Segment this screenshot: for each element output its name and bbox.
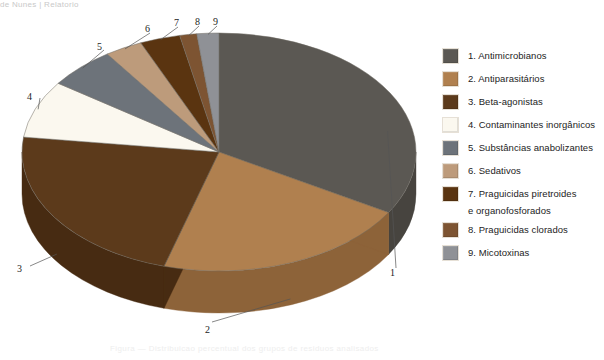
legend-swatch-icon-1 <box>442 48 459 64</box>
legend-label-7: 7. Praguicidas piretroides <box>468 186 577 201</box>
legend-label-5: 5. Substâncias anabolizantes <box>468 140 593 155</box>
legend-swatch-icon-3 <box>442 94 459 110</box>
legend-label-8: 8. Praguicidas clorados <box>468 222 568 237</box>
callout-label-4: 4 <box>27 92 32 102</box>
pie-chart: 1 2 3 4 5 6 7 8 9 <box>0 0 440 340</box>
legend-swatch-icon-7 <box>442 186 459 202</box>
callout-label-5: 5 <box>97 42 102 52</box>
legend-item-3[interactable]: 3. Beta-agonistas <box>442 94 602 110</box>
chart-page: de Nunes | Relatorio 1 2 3 4 5 6 7 8 9 1… <box>0 0 604 360</box>
legend-item-4[interactable]: 4. Contaminantes inorgânicos <box>442 117 602 133</box>
legend-swatch-icon-8 <box>442 222 459 238</box>
pie-top-faces <box>22 33 416 271</box>
legend-swatch-icon-4 <box>442 117 459 133</box>
legend-item-8[interactable]: 8. Praguicidas clorados <box>442 222 602 238</box>
legend-item-2[interactable]: 2. Antiparasitários <box>442 71 602 87</box>
callout-label-7: 7 <box>174 18 179 28</box>
legend-label-6: 6. Sedativos <box>468 163 521 178</box>
callout-label-3: 3 <box>17 264 22 274</box>
callout-label-2: 2 <box>205 325 210 335</box>
legend: 1. Antimicrobianos2. Antiparasitários3. … <box>442 48 602 268</box>
legend-swatch-icon-5 <box>442 140 459 156</box>
legend-swatch-icon-9 <box>442 245 459 261</box>
cropped-caption-text: Figura — Distribuicao percentual dos gru… <box>110 344 530 358</box>
callout-label-8: 8 <box>195 17 200 27</box>
legend-label-7-cont: e organofosforados <box>468 204 602 218</box>
legend-item-1[interactable]: 1. Antimicrobianos <box>442 48 602 64</box>
callout-label-6: 6 <box>145 24 150 34</box>
legend-label-9: 9. Micotoxinas <box>468 245 529 260</box>
legend-label-3: 3. Beta-agonistas <box>468 94 543 109</box>
legend-item-9[interactable]: 9. Micotoxinas <box>442 245 602 261</box>
callout-label-9: 9 <box>213 17 218 27</box>
legend-label-4: 4. Contaminantes inorgânicos <box>468 117 595 132</box>
callout-label-1: 1 <box>390 268 395 278</box>
legend-label-1: 1. Antimicrobianos <box>468 48 547 63</box>
legend-item-7[interactable]: 7. Praguicidas piretroides <box>442 186 602 202</box>
legend-item-5[interactable]: 5. Substâncias anabolizantes <box>442 140 602 156</box>
legend-item-6[interactable]: 6. Sedativos <box>442 163 602 179</box>
legend-label-2: 2. Antiparasitários <box>468 71 544 86</box>
legend-swatch-icon-2 <box>442 71 459 87</box>
legend-swatch-icon-6 <box>442 163 459 179</box>
leader-line-3 <box>30 254 57 266</box>
pie-chart-svg <box>0 0 440 340</box>
